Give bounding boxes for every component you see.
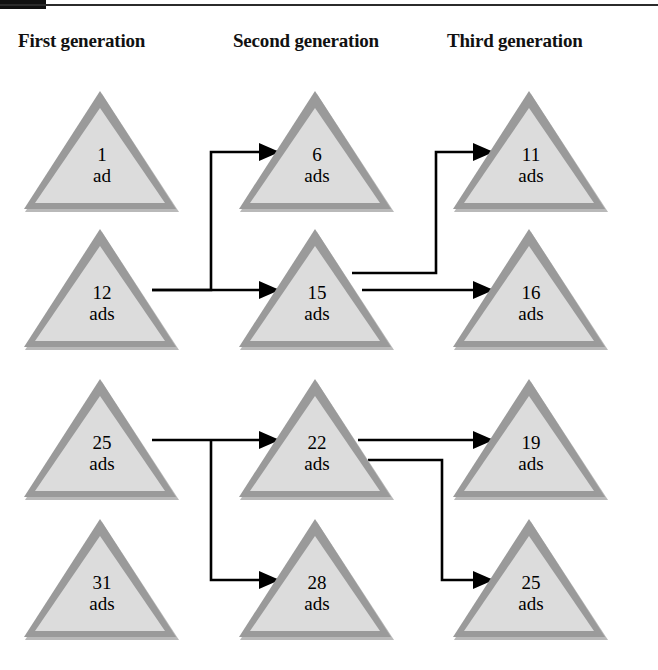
triangle-shape bbox=[237, 376, 397, 504]
column-header-third: Third generation bbox=[447, 30, 583, 52]
node-triangle[interactable]: 28 ads bbox=[237, 516, 397, 644]
triangle-shape bbox=[237, 226, 397, 354]
triangle-shape bbox=[22, 88, 182, 216]
triangle-shape bbox=[22, 516, 182, 644]
node-triangle[interactable]: 6 ads bbox=[237, 88, 397, 216]
header-rule bbox=[0, 4, 658, 6]
triangle-shape bbox=[451, 516, 611, 644]
node-triangle[interactable]: 15 ads bbox=[237, 226, 397, 354]
node-triangle[interactable]: 19 ads bbox=[451, 376, 611, 504]
node-triangle[interactable]: 11 ads bbox=[451, 88, 611, 216]
triangle-shape bbox=[237, 516, 397, 644]
diagram-canvas: First generation Second generation Third… bbox=[0, 0, 658, 670]
triangle-shape bbox=[237, 88, 397, 216]
column-header-second: Second generation bbox=[233, 30, 379, 52]
node-triangle[interactable]: 31 ads bbox=[22, 516, 182, 644]
node-triangle[interactable]: 16 ads bbox=[451, 226, 611, 354]
triangle-shape bbox=[451, 88, 611, 216]
node-triangle[interactable]: 25 ads bbox=[451, 516, 611, 644]
triangle-shape bbox=[22, 376, 182, 504]
node-triangle[interactable]: 1 ad bbox=[22, 88, 182, 216]
triangle-shape bbox=[451, 226, 611, 354]
node-triangle[interactable]: 22 ads bbox=[237, 376, 397, 504]
column-header-first: First generation bbox=[18, 30, 145, 52]
node-triangle[interactable]: 25 ads bbox=[22, 376, 182, 504]
node-triangle[interactable]: 12 ads bbox=[22, 226, 182, 354]
triangle-shape bbox=[22, 226, 182, 354]
triangle-shape bbox=[451, 376, 611, 504]
